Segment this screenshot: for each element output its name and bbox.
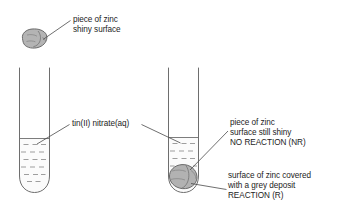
label-line: shiny surface	[73, 25, 121, 35]
leader-line-solution-right	[142, 125, 181, 144]
label-tin-nitrate-solution: tin(II) nitrate(aq)	[72, 119, 129, 129]
leader-line-zinc-top	[43, 21, 71, 40]
label-line: tin(II) nitrate(aq)	[72, 119, 129, 129]
leader-line-solution-left	[37, 125, 70, 145]
label-reaction: surface of zinc covered with a grey depo…	[228, 171, 311, 202]
label-line: with a grey deposit	[228, 181, 311, 191]
label-line: NO REACTION (NR)	[230, 138, 306, 148]
test-tube-right	[169, 68, 199, 193]
tube-left-liquid-fill	[20, 139, 50, 193]
test-tube-left	[20, 68, 50, 193]
figure-canvas: piece of zinc shiny surface tin(II) nitr…	[0, 0, 338, 222]
zinc-piece-top-left	[22, 29, 47, 48]
zinc-piece-in-tube	[169, 165, 197, 189]
label-line: piece of zinc	[73, 15, 121, 25]
label-piece-of-zinc-shiny: piece of zinc shiny surface	[73, 15, 121, 35]
label-line: surface of zinc covered	[228, 171, 311, 181]
label-line: surface still shiny	[230, 128, 306, 138]
zinc-in-tube-outline	[169, 165, 197, 189]
zinc-top-outline	[22, 29, 47, 48]
label-line: piece of zinc	[230, 118, 306, 128]
leader-line-reaction	[191, 184, 227, 190]
label-line: REACTION (R)	[228, 191, 311, 201]
label-no-reaction: piece of zinc surface still shiny NO REA…	[230, 118, 306, 149]
